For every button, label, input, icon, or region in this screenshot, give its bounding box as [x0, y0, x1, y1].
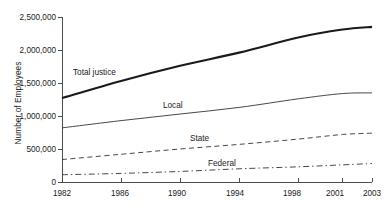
y-axis-ticks: [58, 17, 62, 182]
series-line-total-justice: [62, 27, 372, 98]
plot-area: [0, 0, 392, 206]
series-line-state: [62, 133, 372, 159]
series-line-federal: [62, 164, 372, 175]
series-line-local: [62, 93, 372, 128]
series-lines: [62, 27, 372, 175]
x-axis-ticks: [62, 178, 372, 182]
axes: [62, 17, 372, 182]
chart-container: Number of Employees 0 500,000 1,000,000 …: [0, 0, 392, 206]
